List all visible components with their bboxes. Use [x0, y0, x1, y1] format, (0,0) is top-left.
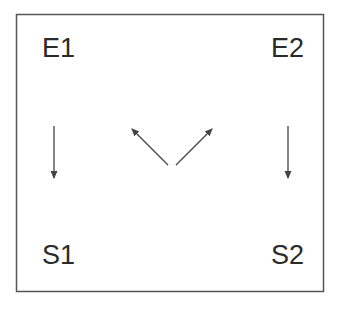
arrow-center-to-e2: [176, 129, 212, 165]
arrow-center-to-e1: [132, 129, 168, 165]
label-s2: S2: [271, 240, 304, 270]
label-e1: E1: [42, 33, 75, 63]
label-s1: S1: [42, 240, 75, 270]
label-e2: E2: [271, 33, 304, 63]
state-diagram: E1 E2 S1 S2: [0, 0, 338, 310]
